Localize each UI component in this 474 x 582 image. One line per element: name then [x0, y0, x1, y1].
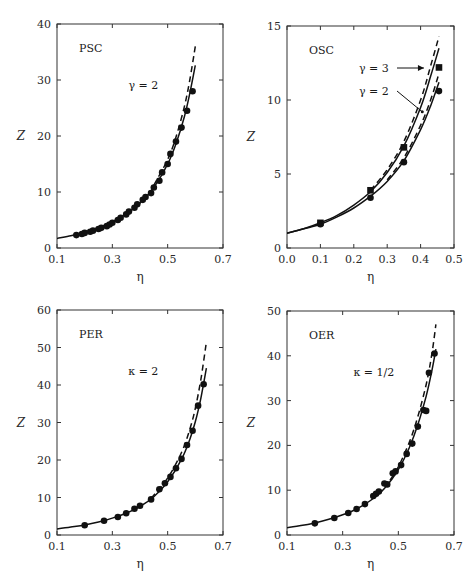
y-tick-label: 10 — [37, 492, 51, 505]
x-tick-label: 0.7 — [445, 540, 463, 553]
theory-curve-dashed — [371, 36, 440, 190]
y-tick-label: 50 — [37, 342, 51, 355]
plot-frame — [287, 26, 454, 248]
panel-title: OSC — [309, 44, 334, 57]
panel-title: PER — [79, 328, 103, 341]
y-tick-label: 30 — [267, 395, 281, 408]
x-tick-label: 0.7 — [214, 253, 232, 266]
y-tick-label: 30 — [37, 74, 51, 87]
y-tick-label: 20 — [267, 439, 281, 452]
panel-title: OER — [309, 329, 335, 342]
y-tick-label: 10 — [37, 186, 51, 199]
x-tick-label: 0.3 — [104, 540, 122, 553]
parameter-annotation: κ = 2 — [128, 365, 158, 378]
plot-frame — [57, 24, 223, 248]
x-tick-label: 0.5 — [445, 253, 463, 266]
y-axis-label: Z — [16, 129, 26, 143]
x-axis-label: η — [367, 270, 374, 284]
x-tick-label: 0.7 — [214, 540, 232, 553]
theory-curve-solid — [287, 48, 439, 233]
y-axis-label: Z — [246, 416, 256, 430]
y-tick-label: 40 — [267, 350, 281, 363]
y-tick-label: 0 — [274, 529, 281, 542]
y-tick-label: 20 — [37, 130, 51, 143]
y-tick-label: 0 — [44, 529, 51, 542]
x-axis-label: η — [136, 270, 143, 284]
panel-oer: 0.10.30.50.701020304050ηZOERκ = 1/2 — [246, 305, 463, 571]
annotation-gamma-3: γ = 3 — [359, 62, 389, 75]
x-axis-label: η — [136, 557, 143, 571]
x-tick-label: 0.5 — [159, 540, 177, 553]
x-tick-label: 0.3 — [104, 253, 122, 266]
theory-curve-solid — [287, 82, 439, 233]
chart-figure: 0.10.30.50.7010203040ηZPSCγ = 2 0.00.10.… — [0, 0, 474, 582]
y-tick-label: 20 — [37, 454, 51, 467]
x-tick-label: 0.3 — [334, 540, 352, 553]
x-tick-label: 0.5 — [390, 540, 408, 553]
data-point-circle — [423, 408, 430, 415]
y-tick-label: 10 — [267, 484, 281, 497]
arrow-head-gamma-2 — [421, 110, 424, 113]
y-tick-label: 15 — [267, 20, 281, 33]
y-tick-label: 60 — [37, 304, 51, 317]
x-tick-label: 0.2 — [345, 253, 363, 266]
arrow-head-gamma-3 — [418, 65, 424, 71]
panel-title: PSC — [79, 42, 102, 55]
y-axis-label: Z — [246, 130, 256, 144]
y-tick-label: 40 — [37, 18, 51, 31]
x-tick-label: 0.5 — [159, 253, 177, 266]
x-tick-label: 0.1 — [312, 253, 330, 266]
y-tick-label: 5 — [274, 168, 281, 181]
y-axis-label: Z — [16, 416, 26, 430]
theory-curve-dashed — [390, 324, 436, 480]
y-tick-label: 50 — [267, 305, 281, 318]
panel-osc: 0.00.10.20.30.40.5051015ηZOSCγ = 3γ = 2 — [246, 20, 463, 284]
annotation-gamma-2: γ = 2 — [359, 85, 389, 98]
y-tick-label: 30 — [37, 417, 51, 430]
y-tick-label: 40 — [37, 379, 51, 392]
parameter-annotation: κ = 1/2 — [353, 366, 394, 379]
arrow-line-gamma-2 — [397, 91, 422, 112]
x-tick-label: 0.4 — [412, 253, 430, 266]
data-point-square — [436, 64, 443, 71]
y-tick-label: 10 — [267, 94, 281, 107]
y-tick-label: 0 — [44, 242, 51, 255]
x-axis-label: η — [367, 557, 374, 571]
y-tick-label: 0 — [274, 242, 281, 255]
theory-curve-dashed — [154, 46, 196, 185]
parameter-annotation: γ = 2 — [128, 79, 158, 92]
plot-frame — [57, 310, 223, 535]
theory-curve-dashed — [151, 342, 206, 498]
theory-curve-solid — [57, 368, 206, 529]
x-tick-label: 0.3 — [378, 253, 396, 266]
panel-per: 0.10.30.50.70102030405060ηZPERκ = 2 — [16, 304, 232, 571]
panel-psc: 0.10.30.50.7010203040ηZPSCγ = 2 — [16, 18, 232, 284]
